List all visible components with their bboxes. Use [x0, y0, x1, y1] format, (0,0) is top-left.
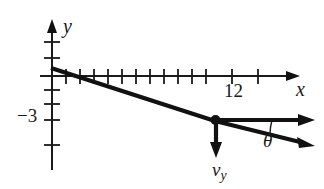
particle-position-dot — [211, 115, 221, 125]
y-axis-group — [44, 19, 60, 170]
y-axis-label: y — [63, 16, 72, 36]
vertical-component-vector-group — [210, 120, 222, 158]
figure-canvas — [0, 0, 324, 189]
velocity-vector-figure: y x 12 −3 θ vy — [0, 0, 324, 189]
resultant-velocity-vector — [215, 121, 300, 142]
vertical-component-arrowhead — [210, 142, 222, 158]
vy-vector-label: vy — [212, 160, 227, 183]
vy-subscript: y — [220, 168, 226, 183]
horizontal-component-arrowhead — [298, 114, 315, 126]
x-tick-label-12: 12 — [224, 81, 243, 100]
y-axis-arrowhead — [47, 19, 57, 33]
x-axis-label: x — [296, 79, 305, 99]
y-tick-label-minus-3: −3 — [17, 106, 37, 125]
theta-angle-label: θ — [263, 131, 272, 150]
resultant-velocity-arrowhead — [297, 137, 315, 148]
